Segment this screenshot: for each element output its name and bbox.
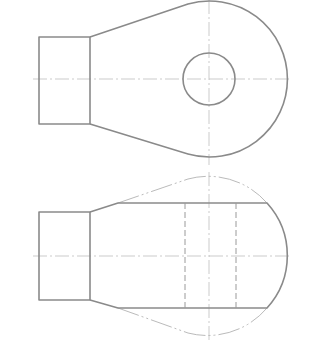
body-outline-front: [90, 203, 287, 308]
top-view: [33, 0, 292, 165]
front-view: [33, 172, 292, 340]
phantom-outline-upper: [118, 176, 267, 203]
engineering-drawing: [0, 0, 323, 354]
boss-rectangle-top: [39, 37, 90, 124]
phantom-outline-lower: [118, 308, 267, 335]
drawing-svg: [0, 0, 323, 354]
